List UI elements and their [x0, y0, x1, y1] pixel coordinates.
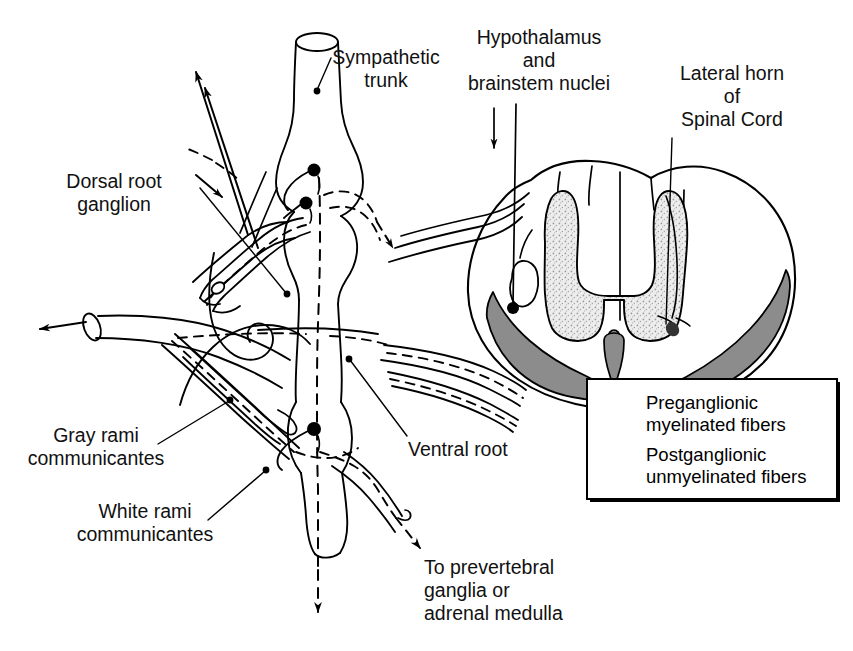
- label-hypothalamus-brainstem: Hypothalamus and brainstem nuclei: [440, 26, 638, 95]
- label-gray-rami-communicantes: Gray rami communicantes: [7, 424, 185, 470]
- preganglionic-chain-dashed: [317, 178, 320, 612]
- legend-label-postganglionic: Postganglionic unmyelinated fibers: [646, 444, 806, 488]
- lower-rami-communicantes: [162, 328, 388, 459]
- label-sympathetic-trunk: Sympathetic trunk: [330, 46, 442, 92]
- label-white-rami-communicantes: White rami communicantes: [56, 500, 234, 546]
- legend-item-postganglionic: Postganglionic unmyelinated fibers: [602, 444, 806, 488]
- label-to-prevertebral-ganglia: To prevertebral ganglia or adrenal medul…: [424, 556, 614, 625]
- label-lateral-horn: Lateral horn of Spinal Cord: [657, 62, 807, 131]
- upper-white-ramus-preganglionic: [188, 149, 310, 312]
- label-ventral-root: Ventral root: [408, 438, 558, 461]
- legend-item-preganglionic: Preganglionic myelinated fibers: [602, 392, 786, 436]
- lower-ganglion-synapse: [278, 422, 421, 548]
- spinal-cord-cross-section: [468, 161, 795, 410]
- legend: Preganglionic myelinated fibers Postgang…: [586, 378, 838, 500]
- spinal-nerve-left-branch: [40, 311, 290, 388]
- legend-label-preganglionic: Preganglionic myelinated fibers: [646, 392, 786, 436]
- upper-ganglion-synapses: [284, 164, 321, 224]
- label-dorsal-root-ganglion: Dorsal root ganglion: [38, 170, 190, 216]
- diagram-canvas: Sympathetic trunk Hypothalamus and brain…: [0, 0, 853, 651]
